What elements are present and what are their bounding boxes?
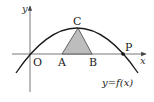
y-axis-label: y [21, 3, 28, 14]
origin-label: O [33, 56, 42, 69]
point-c-label: C [73, 15, 81, 28]
point-p-label: P [125, 41, 133, 54]
graph-canvas: y x O A B C P y=f(x) [0, 0, 154, 102]
x-axis-label: x [140, 55, 146, 66]
point-a-label: A [57, 56, 67, 69]
point-b-label: B [89, 56, 97, 69]
triangle-abc [62, 28, 92, 54]
curve-label: y=f(x) [101, 77, 133, 88]
